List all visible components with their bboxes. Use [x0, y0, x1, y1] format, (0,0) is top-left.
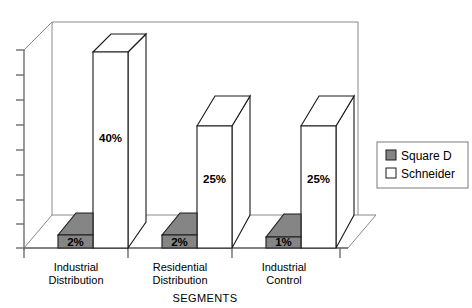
bar-value-label: 1%: [275, 236, 292, 248]
bar-chart-svg: 40% 2% Industrial Distribution 25%: [0, 0, 472, 308]
category-label-line2: Control: [266, 274, 301, 286]
category-label-3: Industrial Control: [262, 261, 307, 286]
chart-container: 40% 2% Industrial Distribution 25%: [0, 0, 472, 308]
bar-top-face: [58, 213, 93, 235]
legend: Square D Schneider: [377, 142, 468, 188]
legend-label-square-d: Square D: [401, 149, 452, 163]
y-axis: [16, 50, 24, 250]
bar-front-face: [301, 126, 336, 248]
category-label-1: Industrial Distribution: [48, 261, 103, 286]
bar-value-label: 25%: [307, 173, 330, 185]
bar-front-face: [93, 52, 128, 248]
bar-side-face: [128, 34, 146, 248]
bar-square-d-g1[interactable]: 2%: [58, 213, 93, 248]
legend-item-square-d[interactable]: Square D: [386, 149, 452, 163]
bar-schneider-g1[interactable]: 40%: [93, 34, 146, 248]
bar-square-d-g3[interactable]: 1%: [266, 214, 301, 248]
bar-top-face: [162, 213, 197, 235]
category-label-line2: Distribution: [48, 274, 103, 286]
bar-value-label: 2%: [67, 236, 84, 248]
legend-label-schneider: Schneider: [401, 167, 455, 181]
category-label-line1: Industrial: [262, 261, 307, 273]
legend-swatch-schneider: [386, 168, 396, 178]
category-label-line1: Industrial: [54, 261, 99, 273]
depth-edge-top-left: [24, 22, 52, 50]
category-label-2: Residential Distribution: [152, 261, 207, 286]
category-label-line2: Distribution: [152, 274, 207, 286]
bar-value-label: 25%: [203, 173, 226, 185]
bar-value-label: 2%: [171, 236, 188, 248]
bar-schneider-g3[interactable]: 25%: [301, 96, 354, 248]
y-axis-ticks: [16, 50, 24, 248]
category-label-line1: Residential: [153, 261, 207, 273]
x-axis-title: SEGMENTS: [173, 292, 238, 304]
bar-top-face: [266, 214, 301, 237]
x-axis: [24, 248, 348, 258]
legend-swatch-square-d: [386, 150, 396, 160]
bar-square-d-g2[interactable]: 2%: [162, 213, 197, 248]
bar-front-face: [197, 126, 232, 248]
legend-item-schneider[interactable]: Schneider: [386, 167, 455, 181]
bar-group-residential-distribution: 25% 2% Residential Distribution: [152, 96, 250, 286]
bar-schneider-g2[interactable]: 25%: [197, 96, 250, 248]
bar-value-label: 40%: [99, 132, 122, 144]
depth-edge-bottom-left: [24, 215, 52, 248]
floor-right-depth-edge: [348, 215, 376, 248]
